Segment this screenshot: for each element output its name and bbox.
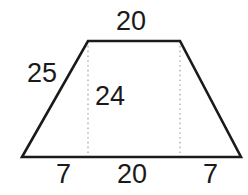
label-left-leg: 25	[27, 60, 57, 87]
label-bottom-right-segment: 7	[203, 161, 218, 188]
trapezoid-diagram: 20 25 24 7 20 7	[0, 0, 248, 195]
label-height: 24	[95, 83, 125, 110]
label-bottom-left-segment: 7	[56, 161, 71, 188]
label-bottom-middle-segment: 20	[117, 161, 147, 188]
label-top-base: 20	[116, 8, 146, 35]
